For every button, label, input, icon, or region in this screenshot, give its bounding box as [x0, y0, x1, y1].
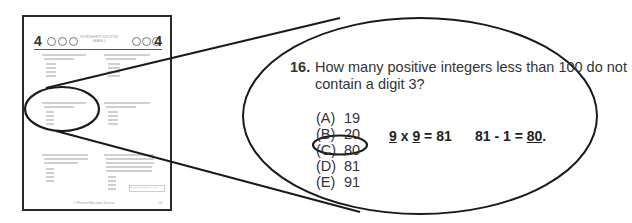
question-text: How many positive integers less than 100…: [315, 59, 632, 93]
focus-ellipse-small: [25, 87, 99, 131]
choice-a: (A) 19: [316, 110, 360, 126]
choice-e: (E) 91: [316, 174, 360, 190]
work-step-subtract: 81 - 1 = 80.: [475, 128, 546, 144]
callout-ellipse-large: [243, 18, 597, 214]
choice-b: (B) 20: [316, 126, 360, 142]
choice-c-selected: (C) 80: [316, 142, 360, 158]
answer-choices: (A) 19 (B) 20 (C) 80 (D) 81 (E) 91: [316, 110, 360, 190]
question-number: 16.: [290, 59, 310, 76]
choice-d: (D) 81: [316, 158, 360, 174]
work-step-multiply: 9 x 9 = 81: [389, 128, 452, 144]
